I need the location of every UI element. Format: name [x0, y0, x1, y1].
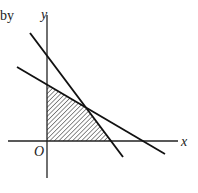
shaded-feasible-region: [47, 85, 111, 141]
y-axis-label: y: [39, 7, 48, 22]
x-axis-label: x: [180, 134, 188, 149]
graph-diagram: y x O: [0, 0, 198, 193]
origin-label: O: [34, 144, 44, 159]
